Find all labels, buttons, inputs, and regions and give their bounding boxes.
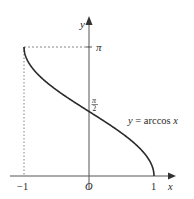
- arccos-graph: y π π 2 y = arccos x −1 O 1 x: [0, 0, 194, 199]
- x-axis-arrow-icon: [168, 173, 176, 180]
- pi-over-2-denominator: 2: [93, 104, 97, 113]
- y-axis-arrow-icon: [86, 16, 93, 25]
- x-axis-label: x: [167, 181, 173, 192]
- origin-label: O: [85, 181, 93, 192]
- x-tick-pos1: 1: [151, 181, 156, 192]
- curve-label: y = arccos x: [127, 115, 178, 126]
- y-axis-label: y: [79, 18, 85, 30]
- x-tick-neg1: −1: [17, 181, 28, 192]
- pi-label: π: [96, 41, 102, 53]
